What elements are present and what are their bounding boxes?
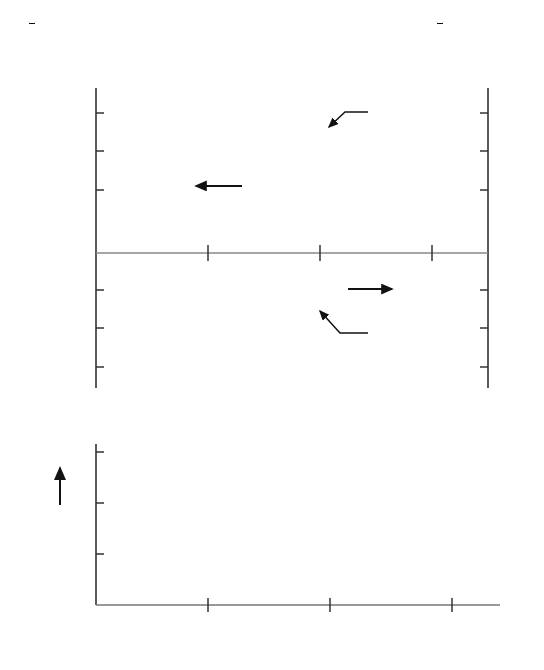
pressure-leader [329,112,368,127]
plot-canvas [0,0,544,670]
top-right-ticks [480,113,488,367]
top-panel-axes [96,88,488,388]
bottom-panel-axes [96,444,500,612]
top-left-ticks [96,113,104,367]
annotation-leaders [320,112,368,333]
figure-container [0,0,544,670]
bottom-y-ticks [96,452,104,554]
temperature-leader [320,311,368,333]
direction-arrows [196,186,392,289]
